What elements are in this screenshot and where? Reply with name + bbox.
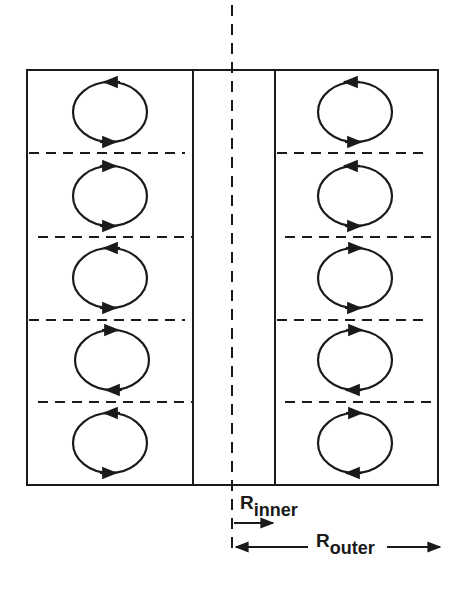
left-vortex-3 xyxy=(73,248,147,308)
right-vortex-3 xyxy=(318,248,392,308)
right-vortices xyxy=(318,82,392,473)
right-vortex-2 xyxy=(318,166,392,226)
left-vortex-2 xyxy=(73,166,147,226)
r-inner-sub: inner xyxy=(254,500,298,520)
left-vortex-4 xyxy=(75,330,149,390)
right-vortex-4 xyxy=(318,330,392,390)
vortex-diagram xyxy=(0,0,466,590)
left-vortices xyxy=(73,82,149,473)
right-vortex-1 xyxy=(318,82,392,142)
left-vortex-1 xyxy=(73,82,147,142)
left-cell-dividers xyxy=(29,153,193,402)
right-cell-dividers xyxy=(277,153,438,402)
r-outer-main: R xyxy=(316,530,330,551)
left-vortex-5 xyxy=(73,413,147,473)
r-outer-sub: outer xyxy=(330,538,375,558)
r-outer-label: Router xyxy=(316,530,375,552)
r-inner-label: Rinner xyxy=(240,492,298,514)
right-vortex-5 xyxy=(318,413,392,473)
r-inner-main: R xyxy=(240,492,254,513)
